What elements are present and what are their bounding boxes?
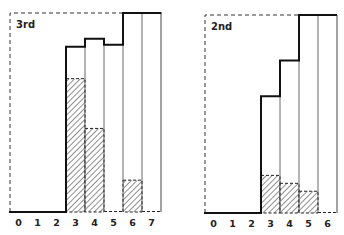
- x-tick-label: 2: [53, 217, 60, 228]
- panel-label: 2nd: [211, 21, 232, 32]
- histogram-figure: 3rd01234567 2nd0123456: [0, 0, 344, 235]
- hatched-bar-4: [280, 183, 299, 213]
- chart-panel-2nd: 2nd0123456: [204, 15, 337, 229]
- hatched-bar-5: [299, 191, 318, 213]
- x-tick-label: 1: [34, 217, 41, 228]
- x-tick-label: 4: [91, 217, 98, 228]
- x-tick-label: 5: [305, 218, 312, 229]
- x-tick-label: 5: [110, 217, 117, 228]
- x-tick-label: 0: [15, 217, 22, 228]
- x-tick-label: 0: [210, 218, 217, 229]
- panel-label: 3rd: [16, 19, 35, 30]
- x-tick-label: 3: [267, 218, 274, 229]
- hatched-bar-4: [85, 128, 104, 212]
- x-tick-label: 6: [129, 217, 136, 228]
- x-tick-label: 2: [248, 218, 255, 229]
- x-tick-label: 1: [229, 218, 236, 229]
- x-tick-label: 7: [148, 217, 155, 228]
- x-tick-label: 4: [286, 218, 293, 229]
- hatched-bar-3: [261, 175, 280, 213]
- x-tick-label: 6: [324, 218, 331, 229]
- hatched-bar-3: [66, 79, 85, 212]
- x-tick-label: 3: [72, 217, 79, 228]
- hatched-bar-6: [123, 180, 142, 212]
- chart-panel-3rd: 3rd01234567: [9, 13, 162, 228]
